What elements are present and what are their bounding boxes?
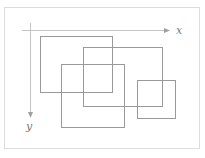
x-axis-label: x <box>176 24 183 37</box>
rectangle-4 <box>138 81 176 119</box>
rectangle-2 <box>84 48 163 107</box>
rectangle-3 <box>62 65 125 128</box>
y-axis: y <box>25 23 33 133</box>
x-axis-arrow-icon <box>164 28 170 33</box>
y-axis-label: y <box>25 120 33 133</box>
y-axis-arrow-icon <box>28 112 33 118</box>
rectangles-diagram: x y <box>0 0 205 158</box>
x-axis: x <box>22 24 183 37</box>
